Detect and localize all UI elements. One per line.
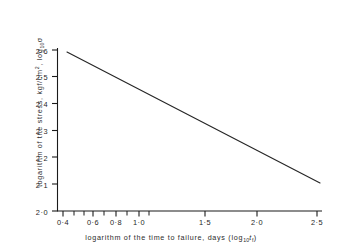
x-tick-label-1-5: 1·5: [192, 218, 218, 227]
y-axis-title-tail: , log: [35, 49, 44, 66]
y-axis-title: logarithm of the stress, kgf/cm2, log10σ: [34, 37, 45, 187]
y-axis-title-superscript: 2: [34, 66, 40, 70]
y-axis-title-main: logarithm of the stress, kgf/cm: [35, 69, 44, 187]
x-axis-minor-ticks: [74, 211, 149, 216]
x-tick-label-2-0: 2·0: [244, 218, 270, 227]
x-axis-major-ticks: [63, 211, 317, 217]
y-axis-title-container: logarithm of the stress, kgf/cm2, log10σ: [28, 0, 42, 227]
y-axis-title-subscript: 10: [39, 42, 45, 48]
y-axis-ticks: [52, 50, 58, 211]
x-axis-title: logarithm of the time to failure, days (…: [0, 233, 342, 243]
chart-plot-area: [0, 0, 342, 251]
y-axis-title-sigma-symbol: σ: [35, 37, 44, 42]
x-tick-label-0-4: 0·4: [50, 218, 76, 227]
x-tick-label-1-0: 1·0: [126, 218, 152, 227]
x-tick-label-2-5: 2·5: [304, 218, 330, 227]
x-axis-title-close-paren: ): [254, 233, 257, 242]
data-line-stress-rupture: [67, 52, 320, 183]
chart-figure: 2·6 2·5 2·4 2·3 2·2 2·1 2·0 0·4 0·6 0·8 …: [0, 0, 342, 251]
x-axis-title-main: logarithm of the time to failure, days (…: [85, 233, 243, 242]
